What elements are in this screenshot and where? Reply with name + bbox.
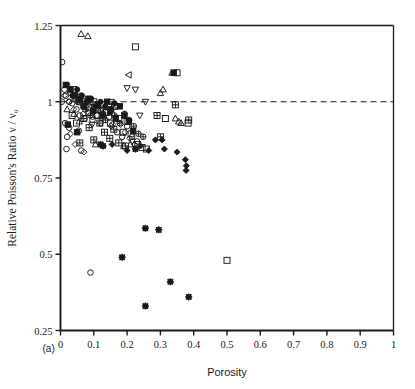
data-point bbox=[121, 111, 127, 117]
data-point bbox=[87, 112, 93, 118]
data-point bbox=[109, 141, 115, 147]
data-point bbox=[65, 122, 70, 127]
data-point bbox=[71, 111, 77, 117]
data-point bbox=[140, 134, 146, 140]
data-point bbox=[162, 116, 168, 122]
data-point bbox=[154, 112, 160, 118]
data-point bbox=[107, 135, 113, 141]
data-point bbox=[64, 146, 70, 152]
x-tick-label: 0.1 bbox=[87, 339, 100, 350]
data-point bbox=[85, 33, 91, 39]
data-point bbox=[78, 31, 84, 37]
x-tick-label: 0.4 bbox=[187, 339, 201, 350]
data-point bbox=[131, 123, 137, 129]
data-point bbox=[182, 157, 188, 163]
x-tick-label: 0.2 bbox=[121, 339, 134, 350]
data-point bbox=[70, 93, 75, 98]
data-point bbox=[125, 72, 131, 78]
data-point bbox=[97, 108, 103, 114]
data-point bbox=[64, 106, 70, 112]
figure-root: 00.10.20.30.40.50.60.70.80.910.250.50.75… bbox=[0, 0, 415, 389]
y-axis-title: Relative Poisson's Ratio ν / ν₀ bbox=[6, 109, 18, 247]
data-point bbox=[161, 146, 167, 152]
data-point bbox=[116, 140, 122, 146]
data-point bbox=[117, 120, 123, 126]
data-point bbox=[124, 86, 130, 92]
data-point bbox=[75, 87, 80, 92]
y-tick-label: 0.75 bbox=[34, 173, 52, 184]
data-point bbox=[172, 102, 178, 108]
data-point bbox=[142, 303, 149, 310]
scatter-plot: 00.10.20.30.40.50.60.70.80.910.250.50.75… bbox=[0, 0, 415, 389]
data-point bbox=[93, 104, 98, 109]
data-point bbox=[126, 117, 132, 123]
series-open-square bbox=[69, 44, 230, 264]
x-tick-label: 0.9 bbox=[354, 339, 367, 350]
data-point bbox=[185, 293, 192, 300]
data-point bbox=[132, 87, 138, 93]
data-point bbox=[183, 167, 189, 173]
data-point bbox=[155, 226, 162, 233]
x-tick-label: 1 bbox=[391, 339, 396, 350]
data-point bbox=[174, 149, 180, 155]
data-point bbox=[74, 130, 79, 135]
data-point bbox=[103, 104, 108, 109]
data-point bbox=[132, 146, 139, 153]
data-point bbox=[224, 257, 230, 263]
x-tick-label: 0.3 bbox=[154, 339, 167, 350]
data-point bbox=[98, 99, 103, 104]
data-point bbox=[160, 86, 166, 92]
data-point bbox=[82, 106, 88, 112]
y-tick-label: 0.25 bbox=[34, 326, 52, 337]
data-point bbox=[97, 141, 104, 148]
data-point bbox=[119, 254, 126, 261]
data-point bbox=[68, 87, 73, 92]
data-point bbox=[107, 110, 112, 115]
x-tick-label: 0.7 bbox=[287, 339, 300, 350]
data-point bbox=[167, 278, 174, 285]
data-point bbox=[84, 99, 89, 104]
data-point bbox=[89, 96, 94, 101]
x-tick-label: 0 bbox=[58, 339, 63, 350]
x-tick-label: 0.8 bbox=[320, 339, 333, 350]
series-asterisk bbox=[97, 141, 192, 310]
data-point bbox=[146, 148, 152, 154]
y-tick-label: 0.5 bbox=[39, 249, 52, 260]
panel-label: (a) bbox=[43, 343, 55, 354]
data-point bbox=[137, 113, 143, 119]
series-triangle-left bbox=[125, 72, 131, 78]
x-tick-label: 0.5 bbox=[220, 339, 233, 350]
y-tick-label: 1.25 bbox=[34, 21, 52, 32]
data-point bbox=[67, 131, 73, 137]
data-point bbox=[102, 117, 108, 123]
data-point bbox=[79, 93, 84, 98]
series-filled-diamond bbox=[109, 137, 189, 174]
y-tick-label: 1 bbox=[47, 97, 52, 108]
data-layer bbox=[59, 31, 230, 310]
data-point bbox=[112, 101, 117, 106]
data-point bbox=[142, 225, 149, 232]
x-axis-title: Porosity bbox=[207, 366, 247, 378]
data-point bbox=[101, 129, 107, 135]
data-point bbox=[132, 44, 138, 50]
data-point bbox=[88, 270, 94, 276]
x-tick-label: 0.6 bbox=[254, 339, 267, 350]
